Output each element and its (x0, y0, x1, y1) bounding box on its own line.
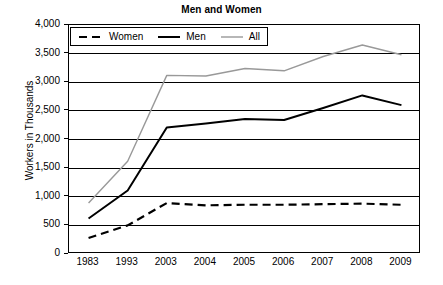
y-tick-label: 1,000 (35, 191, 60, 201)
x-tick-label: 2009 (389, 256, 411, 268)
x-tick-label: 2005 (233, 256, 255, 268)
y-tick-label: 2,500 (35, 105, 60, 115)
solid-gray-line-icon (220, 32, 244, 42)
legend-label: Women (109, 32, 143, 42)
solid-line-icon (157, 32, 181, 42)
y-tick-label: 0 (54, 248, 60, 258)
x-tick-label: 2004 (194, 256, 216, 268)
y-tick-label: 4,000 (35, 19, 60, 29)
plot-area (68, 24, 420, 253)
chart-legend: WomenMenAll (70, 27, 268, 46)
x-tick-label: 2007 (311, 256, 333, 268)
legend-label: All (249, 32, 260, 42)
legend-entry-men: Men (157, 32, 205, 42)
x-tick-label: 1993 (116, 256, 138, 268)
legend-label: Men (186, 32, 205, 42)
series-line-women (89, 203, 402, 238)
series-lines (69, 25, 421, 254)
y-tick-label: 3,000 (35, 76, 60, 86)
x-tick-label: 2006 (272, 256, 294, 268)
x-axis-tick-labels: 198319932003200420052006200720082009 (68, 256, 420, 276)
y-tick-label: 500 (43, 219, 60, 229)
series-line-men (89, 95, 402, 218)
line-chart: Men and Women Workers in Thousands 4,000… (0, 0, 443, 285)
legend-entry-women: Women (78, 32, 143, 42)
legend-entry-all: All (220, 32, 260, 42)
x-tick-label: 1983 (76, 256, 98, 268)
y-tick-label: 3,500 (35, 48, 60, 58)
chart-title: Men and Women (0, 4, 443, 16)
y-tick-label: 1,500 (35, 162, 60, 172)
y-axis-tick-labels: 4,0003,5003,0002,5002,0001,5001,0005000 (0, 0, 64, 285)
y-tick-label: 2,000 (35, 134, 60, 144)
x-tick-label: 2003 (155, 256, 177, 268)
x-tick-label: 2008 (350, 256, 372, 268)
dashed-line-icon (78, 32, 104, 42)
